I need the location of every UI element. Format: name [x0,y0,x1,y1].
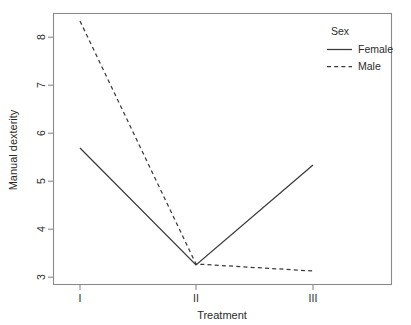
x-axis-title: Treatment [197,309,247,321]
x-tick-label-i: I [79,292,82,304]
y-tick-label-6: 6 [35,130,47,136]
plot-canvas: 3 4 5 6 7 8 I II III Treatment Manual de… [0,0,411,325]
y-tick-label-7: 7 [35,82,47,88]
y-axis-title: Manual dexterity [7,109,19,190]
y-tick-label-4: 4 [35,226,47,232]
series-line-female [80,148,313,265]
y-tick-label-3: 3 [35,274,47,280]
x-tick-label-iii: III [309,292,318,304]
interaction-plot-figure: 3 4 5 6 7 8 I II III Treatment Manual de… [0,0,411,325]
legend-label-male: Male [358,60,381,72]
x-tick-label-ii: II [193,292,199,304]
y-tick-label-5: 5 [35,178,47,184]
series-line-male [80,21,313,271]
legend: Sex Female Male [327,25,393,72]
plot-frame [54,14,392,285]
legend-label-female: Female [358,43,393,55]
legend-title: Sex [331,25,350,37]
x-axis-ticks [80,285,313,291]
y-tick-label-8: 8 [35,34,47,40]
y-axis-ticks [48,37,54,277]
x-axis-tick-labels: I II III [79,292,318,304]
y-axis-tick-labels: 3 4 5 6 7 8 [35,34,47,280]
